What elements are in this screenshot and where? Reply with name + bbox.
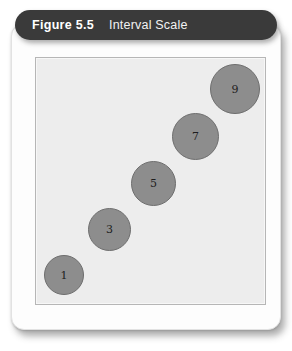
data-point-label: 3 [106, 224, 113, 235]
data-point-label: 5 [150, 178, 157, 189]
data-point-circle: 3 [88, 208, 131, 251]
data-point-circle: 9 [210, 64, 260, 114]
data-point-circle: 7 [172, 113, 219, 160]
data-point-circle: 1 [44, 255, 84, 295]
data-point-label: 9 [232, 84, 239, 95]
figure-header-bar: Figure 5.5 Interval Scale [15, 10, 277, 40]
figure-caption-label: Interval Scale [109, 18, 188, 32]
data-point-circle: 5 [131, 161, 176, 206]
data-point-label: 1 [61, 270, 68, 281]
data-point-label: 7 [192, 131, 199, 142]
figure-number-label: Figure 5.5 [32, 18, 94, 32]
figure-container: Figure 5.5 Interval Scale 13579 [0, 0, 292, 351]
